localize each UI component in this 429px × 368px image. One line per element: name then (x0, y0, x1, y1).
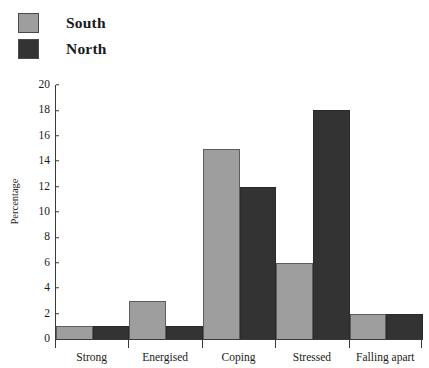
bar-falling-apart-north[interactable] (386, 314, 423, 339)
bar-coping-south[interactable] (203, 149, 240, 340)
y-tick-label: 18 (39, 105, 57, 117)
bar-energised-south[interactable] (129, 301, 166, 339)
x-axis-label-text: Coping (222, 351, 256, 363)
x-axis-label-text: Falling apart (356, 351, 414, 363)
bar-falling-apart-south[interactable] (350, 314, 387, 339)
chart-legend: South North (18, 10, 107, 62)
legend-label-north: North (66, 40, 107, 58)
bar-coping-north[interactable] (240, 187, 277, 339)
bar-energised-north[interactable] (166, 326, 203, 339)
bar-chart: Percentage 20181614121086420 StrongEnerg… (0, 78, 429, 368)
y-tick-label: 6 (44, 257, 56, 269)
x-axis-label-coping: Coping (202, 340, 275, 363)
x-axis-label-falling-apart: Falling apart (349, 340, 422, 363)
x-axis-label-strong: Strong (55, 340, 128, 363)
y-tick-label: 10 (39, 206, 57, 218)
x-axis-labels: StrongEnergisedCopingStressedFalling apa… (55, 340, 422, 363)
y-tick-label: 2 (44, 308, 56, 320)
y-tick-label: 8 (44, 232, 56, 244)
x-tick-mark (421, 340, 422, 348)
bar-group (203, 85, 276, 339)
x-tick-mark (202, 340, 203, 348)
x-axis-label-stressed: Stressed (275, 340, 348, 363)
bar-group (129, 85, 202, 339)
bar-stressed-north[interactable] (313, 110, 350, 339)
plot-area: 20181614121086420 (55, 85, 423, 340)
bar-group (276, 85, 349, 339)
x-tick-mark (349, 340, 350, 348)
y-axis-title: Percentage (9, 162, 20, 242)
y-tick-label: 14 (39, 155, 57, 167)
y-tick-label: 12 (39, 181, 57, 193)
legend-label-south: South (66, 14, 106, 32)
bar-group (350, 85, 423, 339)
bar-groups (56, 85, 423, 339)
legend-item-north: North (18, 36, 107, 62)
legend-item-south: South (18, 10, 107, 36)
y-tick-label: 20 (39, 79, 57, 91)
bar-strong-north[interactable] (93, 326, 130, 339)
bar-stressed-south[interactable] (276, 263, 313, 339)
x-axis-label-text: Stressed (293, 351, 331, 363)
x-axis-label-energised: Energised (128, 340, 201, 363)
bar-group (56, 85, 129, 339)
x-tick-mark (128, 340, 129, 348)
legend-swatch-south-icon (18, 13, 39, 33)
x-axis-label-text: Strong (76, 351, 107, 363)
y-tick-label: 4 (44, 282, 56, 294)
x-tick-mark (275, 340, 276, 348)
legend-swatch-north-icon (18, 39, 39, 59)
x-axis-label-text: Energised (142, 351, 188, 363)
bar-strong-south[interactable] (56, 326, 93, 339)
y-tick-label: 16 (39, 130, 57, 142)
x-tick-mark (55, 340, 56, 348)
